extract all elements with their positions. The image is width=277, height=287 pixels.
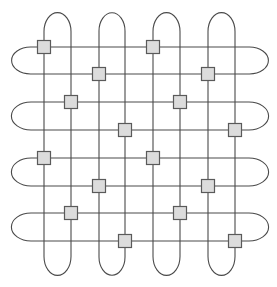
node-square-5 bbox=[65, 96, 78, 109]
crossing-nodes bbox=[38, 41, 242, 248]
node-square-1 bbox=[38, 41, 51, 54]
node-square-8 bbox=[229, 124, 242, 137]
node-square-6 bbox=[174, 96, 187, 109]
node-square-15 bbox=[119, 235, 132, 248]
vertical-loops bbox=[44, 13, 235, 276]
node-square-10 bbox=[147, 152, 160, 165]
node-square-3 bbox=[93, 68, 106, 81]
node-square-16 bbox=[229, 235, 242, 248]
node-square-2 bbox=[147, 41, 160, 54]
horizontal-loops bbox=[11, 47, 268, 241]
node-square-11 bbox=[93, 180, 106, 193]
node-square-7 bbox=[119, 124, 132, 137]
node-square-13 bbox=[65, 207, 78, 220]
node-square-14 bbox=[174, 207, 187, 220]
node-square-9 bbox=[38, 152, 51, 165]
node-square-4 bbox=[202, 68, 215, 81]
diagram-canvas bbox=[0, 0, 277, 287]
woven-loop-grid bbox=[0, 0, 277, 287]
node-square-12 bbox=[202, 180, 215, 193]
